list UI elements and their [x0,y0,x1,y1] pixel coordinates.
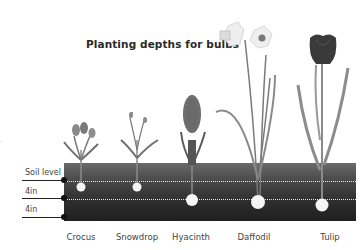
plants-illustration [0,0,364,250]
daffodil-icon [216,22,275,209]
plant-name-daffodil: Daffodil [238,232,271,242]
tulip-icon [298,34,348,211]
plant-name-hyacinth: Hyacinth [172,232,210,242]
plant-name-tulip: Tulip [320,232,339,242]
crocus-icon [64,122,98,192]
plant-name-snowdrop: Snowdrop [116,232,158,242]
plant-name-crocus: Crocus [67,232,96,242]
hyacinth-icon [181,95,205,206]
snowdrop-icon [121,112,158,192]
